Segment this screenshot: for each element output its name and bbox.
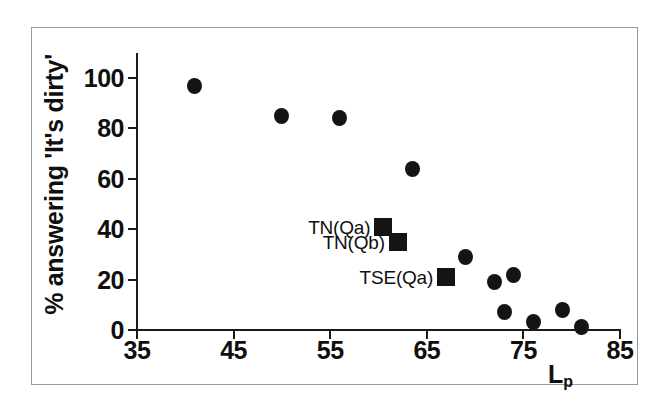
y-tick-label-100: 100 <box>84 66 124 91</box>
y-tick-20 <box>128 279 137 281</box>
y-tick-label-0: 0 <box>111 318 124 343</box>
y-tick-label-80: 80 <box>97 116 124 141</box>
point-label-tnqb: TN(Qb) <box>323 232 385 251</box>
point-label-tseqa: TSE(Qa) <box>360 268 434 287</box>
x-axis-title-base: L <box>548 360 563 388</box>
data-point-circle <box>458 249 473 265</box>
data-point-circle <box>497 304 512 320</box>
y-tick-100 <box>128 77 137 79</box>
data-point-circle <box>332 110 347 126</box>
y-tick-40 <box>128 228 137 230</box>
x-tick-label-65: 65 <box>413 338 440 363</box>
data-point-circle <box>274 108 289 124</box>
y-tick-80 <box>128 127 137 129</box>
figure-container: % answering 'It's dirty' Lp 020406080100… <box>0 0 669 415</box>
data-point-square <box>389 233 407 251</box>
y-tick-label-20: 20 <box>97 267 124 292</box>
y-tick-60 <box>128 178 137 180</box>
x-axis-title-subscript: p <box>563 373 573 390</box>
x-tick-label-35: 35 <box>124 338 151 363</box>
y-tick-0 <box>128 329 137 331</box>
y-axis-tick-labels: 020406080100 <box>0 0 124 415</box>
data-point-circle <box>555 302 570 318</box>
x-tick-label-85: 85 <box>607 338 634 363</box>
data-point-circle <box>405 161 420 177</box>
x-tick-label-55: 55 <box>317 338 344 363</box>
y-tick-label-60: 60 <box>97 166 124 191</box>
data-point-circle <box>526 314 541 330</box>
plot-area: TN(Qa)TN(Qb)TSE(Qa) <box>137 78 620 330</box>
y-tick-label-40: 40 <box>97 217 124 242</box>
data-point-circle <box>506 267 521 283</box>
data-point-square <box>437 268 455 286</box>
x-axis-title: Lp <box>548 362 573 390</box>
data-point-circle <box>187 78 202 94</box>
x-tick-label-45: 45 <box>220 338 247 363</box>
x-tick-label-75: 75 <box>510 338 537 363</box>
data-point-circle <box>487 274 502 290</box>
